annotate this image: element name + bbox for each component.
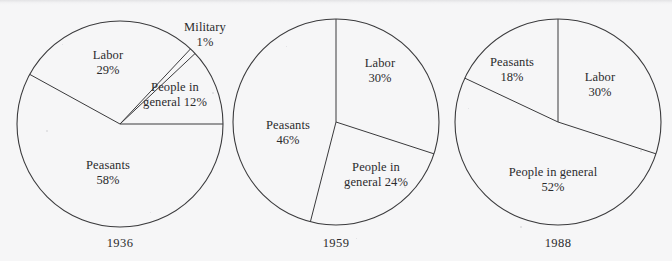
- slice-label-1959-peasants: Peasants46%: [266, 118, 310, 147]
- year-caption-1936: 1936: [107, 236, 134, 251]
- paper-speck: [212, 92, 214, 94]
- slice-label-1936-peasants: Peasants58%: [86, 158, 130, 187]
- slice-label-1959-people-in-general: People ingeneral 24%: [344, 160, 408, 189]
- slice-label-1988-peasants: Peasants18%: [490, 55, 534, 84]
- slice-label-name: People in: [352, 160, 400, 174]
- slice-label-percent: 18%: [490, 70, 534, 85]
- slice-label-name: Military: [184, 20, 226, 34]
- slice-label-name: Labor: [585, 70, 615, 84]
- paper-speck: [150, 212, 151, 213]
- pie-slice-divider-1959-people-in-general: [336, 122, 434, 154]
- slice-label-1936-labor: Labor29%: [93, 48, 123, 77]
- slice-label-name: People in: [151, 80, 199, 94]
- year-caption-1988: 1988: [545, 236, 572, 251]
- slice-label-percent: 30%: [585, 85, 615, 100]
- slice-label-percent: 46%: [266, 133, 310, 148]
- slice-label-percent: 52%: [509, 180, 597, 195]
- slice-label-1936-military: Military1%: [184, 20, 226, 49]
- paper-speck: [46, 130, 48, 132]
- paper-speck: [640, 150, 642, 152]
- paper-speck: [404, 186, 406, 188]
- paper-speck: [356, 238, 357, 239]
- pie-slice-divider-1988-peasants: [465, 78, 558, 122]
- slice-label-name: Peasants: [266, 118, 310, 132]
- paper-speck: [286, 46, 287, 47]
- pie-chart-figure: People ingeneral 12%Military1%Labor29%Pe…: [0, 0, 672, 261]
- slice-label-percent: 30%: [365, 71, 395, 86]
- slice-label-percent: 58%: [86, 173, 130, 188]
- slice-label-1988-people-in-general: People in general52%: [509, 165, 597, 194]
- slice-label-name: People in general: [509, 165, 597, 179]
- pie-slice-divider-1936-peasants: [30, 74, 120, 124]
- year-caption-1959: 1959: [323, 236, 350, 251]
- slice-label-1959-labor: Labor30%: [365, 56, 395, 85]
- slice-label-name: Labor: [93, 48, 123, 62]
- slice-label-1988-labor: Labor30%: [585, 70, 615, 99]
- slice-label-name: Peasants: [490, 55, 534, 69]
- slice-label-percent: 1%: [184, 35, 226, 50]
- slice-label-percent: general 12%: [143, 95, 207, 110]
- slice-label-name: Peasants: [86, 158, 130, 172]
- paper-speck: [468, 108, 469, 109]
- slice-label-1936-people-in-general: People ingeneral 12%: [143, 80, 207, 109]
- paper-speck: [520, 226, 522, 228]
- slice-label-percent: general 24%: [344, 175, 408, 190]
- paper-speck: [62, 44, 63, 45]
- pie-slice-divider-1959-peasants: [310, 122, 336, 222]
- slice-label-percent: 29%: [93, 63, 123, 78]
- slice-label-name: Labor: [365, 56, 395, 70]
- pie-chart-canvas: [0, 0, 672, 261]
